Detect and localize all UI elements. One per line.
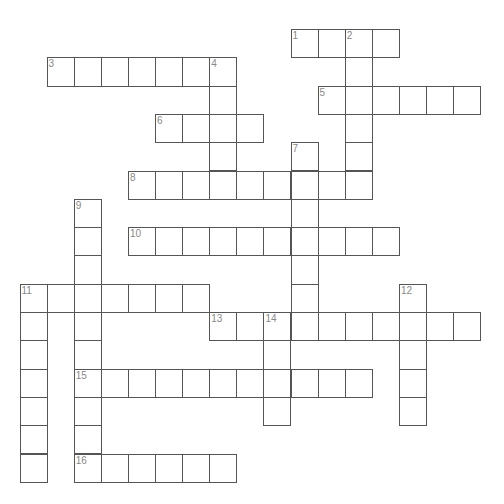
crossword-cell[interactable] (263, 369, 291, 398)
crossword-cell[interactable]: 1 (291, 29, 319, 58)
crossword-cell[interactable] (263, 171, 291, 200)
crossword-cell[interactable] (291, 171, 319, 200)
crossword-cell[interactable] (20, 454, 48, 483)
crossword-cell[interactable] (101, 57, 129, 86)
crossword-cell[interactable] (318, 227, 346, 256)
crossword-cell[interactable] (318, 312, 346, 341)
crossword-cell[interactable] (128, 57, 156, 86)
crossword-cell[interactable] (128, 369, 156, 398)
crossword-cell[interactable] (236, 171, 264, 200)
crossword-cell[interactable] (182, 454, 210, 483)
crossword-cell[interactable]: 2 (345, 29, 373, 58)
crossword-cell[interactable] (399, 369, 427, 398)
crossword-cell[interactable] (209, 142, 237, 171)
crossword-cell[interactable] (453, 312, 481, 341)
crossword-cell[interactable] (74, 340, 102, 369)
crossword-cell[interactable] (263, 397, 291, 426)
crossword-cell[interactable]: 8 (128, 171, 156, 200)
crossword-cell[interactable] (47, 284, 75, 313)
crossword-cell[interactable] (74, 397, 102, 426)
crossword-cell[interactable] (74, 227, 102, 256)
crossword-cell[interactable] (101, 284, 129, 313)
crossword-cell[interactable] (128, 284, 156, 313)
crossword-cell[interactable] (20, 425, 48, 454)
crossword-cell[interactable] (20, 312, 48, 341)
crossword-cell[interactable] (209, 454, 237, 483)
crossword-cell[interactable]: 10 (128, 227, 156, 256)
crossword-cell[interactable] (101, 369, 129, 398)
crossword-cell[interactable] (74, 425, 102, 454)
crossword-cell[interactable] (182, 171, 210, 200)
crossword-cell[interactable]: 7 (291, 142, 319, 171)
crossword-cell[interactable] (399, 340, 427, 369)
crossword-cell[interactable] (291, 255, 319, 284)
crossword-cell[interactable] (345, 312, 373, 341)
crossword-cell[interactable] (345, 86, 373, 115)
crossword-cell[interactable] (182, 369, 210, 398)
crossword-cell[interactable] (345, 142, 373, 171)
crossword-cell[interactable]: 11 (20, 284, 48, 313)
crossword-cell[interactable] (345, 57, 373, 86)
crossword-cell[interactable] (209, 227, 237, 256)
crossword-cell[interactable] (291, 199, 319, 228)
crossword-cell[interactable] (74, 57, 102, 86)
crossword-cell[interactable] (209, 369, 237, 398)
crossword-cell[interactable] (155, 284, 183, 313)
crossword-cell[interactable] (345, 369, 373, 398)
crossword-cell[interactable] (426, 86, 454, 115)
crossword-cell[interactable] (345, 227, 373, 256)
crossword-cell[interactable] (372, 312, 400, 341)
crossword-cell[interactable]: 15 (74, 369, 102, 398)
crossword-cell[interactable]: 16 (74, 454, 102, 483)
crossword-cell[interactable] (74, 255, 102, 284)
crossword-cell[interactable] (128, 454, 156, 483)
crossword-cell[interactable] (182, 284, 210, 313)
crossword-cell[interactable] (318, 29, 346, 58)
crossword-cell[interactable] (182, 227, 210, 256)
crossword-cell[interactable] (155, 57, 183, 86)
crossword-cell[interactable] (453, 86, 481, 115)
crossword-cell[interactable] (372, 227, 400, 256)
crossword-cell[interactable] (345, 171, 373, 200)
crossword-cell[interactable] (372, 86, 400, 115)
crossword-cell[interactable] (291, 369, 319, 398)
crossword-cell[interactable]: 5 (318, 86, 346, 115)
crossword-cell[interactable]: 12 (399, 284, 427, 313)
crossword-cell[interactable] (236, 227, 264, 256)
crossword-cell[interactable] (74, 284, 102, 313)
crossword-cell[interactable] (236, 114, 264, 143)
crossword-cell[interactable] (209, 114, 237, 143)
crossword-cell[interactable] (399, 397, 427, 426)
crossword-cell[interactable] (291, 312, 319, 341)
crossword-cell[interactable]: 13 (209, 312, 237, 341)
crossword-cell[interactable]: 4 (209, 57, 237, 86)
crossword-cell[interactable] (209, 86, 237, 115)
crossword-cell[interactable] (291, 227, 319, 256)
crossword-cell[interactable] (182, 114, 210, 143)
crossword-cell[interactable] (263, 227, 291, 256)
crossword-cell[interactable] (74, 312, 102, 341)
crossword-cell[interactable]: 3 (47, 57, 75, 86)
crossword-cell[interactable] (426, 312, 454, 341)
crossword-cell[interactable] (20, 397, 48, 426)
crossword-cell[interactable] (155, 171, 183, 200)
crossword-cell[interactable] (20, 340, 48, 369)
crossword-cell[interactable] (263, 340, 291, 369)
crossword-cell[interactable] (182, 57, 210, 86)
crossword-cell[interactable] (209, 171, 237, 200)
crossword-cell[interactable] (155, 369, 183, 398)
crossword-cell[interactable]: 14 (263, 312, 291, 341)
crossword-cell[interactable] (101, 454, 129, 483)
crossword-cell[interactable] (236, 369, 264, 398)
crossword-cell[interactable]: 9 (74, 199, 102, 228)
crossword-cell[interactable]: 6 (155, 114, 183, 143)
crossword-cell[interactable] (155, 454, 183, 483)
crossword-cell[interactable] (236, 312, 264, 341)
crossword-cell[interactable] (291, 284, 319, 313)
crossword-cell[interactable] (155, 227, 183, 256)
crossword-cell[interactable] (399, 86, 427, 115)
crossword-cell[interactable] (399, 312, 427, 341)
crossword-cell[interactable] (372, 29, 400, 58)
crossword-cell[interactable] (318, 171, 346, 200)
crossword-cell[interactable] (318, 369, 346, 398)
